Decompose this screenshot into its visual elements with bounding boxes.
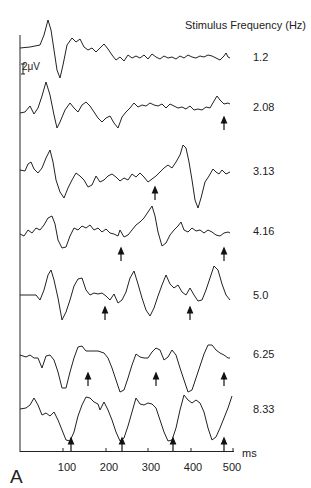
arrow-icon (119, 248, 124, 261)
trace-4.16 (20, 206, 230, 248)
freq-label: 5.0 (253, 289, 268, 301)
freq-label: 2.08 (253, 101, 274, 113)
arrow-icon (222, 248, 227, 261)
trace-5.0 (20, 266, 230, 320)
arrow-icon (154, 373, 159, 386)
trace-8.33 (20, 395, 232, 441)
trace-6.25 (20, 345, 230, 392)
x-tick-label: 300 (142, 461, 160, 473)
arrow-icon (86, 373, 91, 386)
arrow-icon (120, 438, 125, 451)
arrow-icon (153, 187, 158, 200)
arrow-icon (188, 307, 193, 320)
x-tick-label: 200 (100, 461, 118, 473)
scale-bar-label: 2μV (22, 61, 40, 72)
freq-label: 1.2 (253, 51, 268, 63)
arrow-icon (69, 438, 74, 451)
x-tick-label: 100 (58, 461, 76, 473)
arrow-icon (222, 373, 227, 386)
freq-label: 3.13 (253, 165, 274, 177)
trace-2.08 (20, 82, 230, 128)
freq-label: 8.33 (253, 403, 274, 415)
x-tick-label: 400 (184, 461, 202, 473)
trace-3.13 (20, 145, 230, 208)
arrow-icon (222, 117, 227, 130)
legend-title: Stimulus Frequency (Hz) (185, 19, 306, 31)
x-tick-label: 500 (223, 461, 241, 473)
freq-label: 6.25 (253, 348, 274, 360)
panel-label: A (10, 466, 23, 488)
freq-label: 4.16 (253, 225, 274, 237)
arrow-icon (222, 438, 227, 451)
arrow-icon (103, 307, 108, 320)
x-axis-unit: ms (242, 447, 257, 459)
